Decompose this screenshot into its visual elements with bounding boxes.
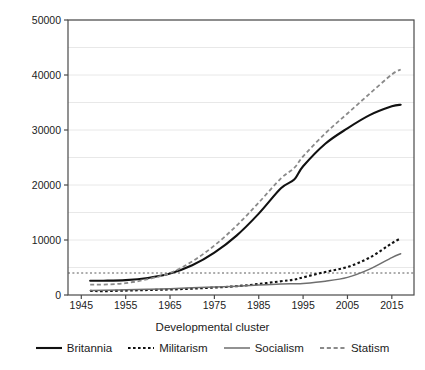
legend-label: Militarism bbox=[159, 342, 208, 354]
y-tick-label: 0 bbox=[13, 290, 61, 300]
y-tick-label: 20000 bbox=[13, 180, 61, 190]
legend-label: Socialism bbox=[255, 342, 304, 354]
legend-label: Britannia bbox=[67, 342, 112, 354]
legend-item-socialism[interactable]: Socialism bbox=[224, 342, 304, 354]
x-axis-title: Developmental cluster bbox=[0, 321, 425, 333]
legend-item-militarism[interactable]: Militarism bbox=[128, 342, 208, 354]
y-tick-label: 50000 bbox=[13, 15, 61, 25]
legend-swatch-britannia-icon bbox=[36, 343, 62, 353]
legend-swatch-statism-icon bbox=[320, 343, 346, 353]
y-tick-label: 10000 bbox=[13, 235, 61, 245]
x-tick-label: 1945 bbox=[59, 299, 103, 311]
x-tick-label: 2005 bbox=[325, 299, 369, 311]
legend-item-britannia[interactable]: Britannia bbox=[36, 342, 112, 354]
x-tick-label: 1955 bbox=[104, 299, 148, 311]
x-tick-label: 1985 bbox=[237, 299, 281, 311]
x-tick-label: 2015 bbox=[370, 299, 414, 311]
y-tick-label: 40000 bbox=[13, 70, 61, 80]
chart-plot-area bbox=[0, 0, 425, 370]
chart-figure: GDP per capita (USD) Developmental clust… bbox=[0, 0, 425, 370]
legend-label: Statism bbox=[351, 342, 389, 354]
x-tick-label: 1965 bbox=[148, 299, 192, 311]
legend-swatch-socialism-icon bbox=[224, 343, 250, 353]
legend-swatch-militarism-icon bbox=[128, 343, 154, 353]
legend-item-statism[interactable]: Statism bbox=[320, 342, 389, 354]
chart-legend: BritanniaMilitarismSocialismStatism bbox=[0, 342, 425, 354]
x-tick-label: 1975 bbox=[192, 299, 236, 311]
y-tick-label: 30000 bbox=[13, 125, 61, 135]
x-tick-label: 1995 bbox=[281, 299, 325, 311]
